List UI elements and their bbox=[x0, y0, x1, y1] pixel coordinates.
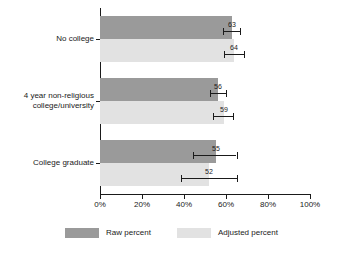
legend-entry: Adjusted percent bbox=[177, 228, 278, 238]
bar-raw bbox=[100, 16, 232, 39]
data-label: 55 bbox=[212, 145, 220, 153]
error-bar-cap-high bbox=[240, 28, 241, 35]
error-bar-line bbox=[181, 178, 237, 179]
error-bar-line bbox=[224, 54, 244, 55]
x-tick-mark bbox=[226, 195, 227, 199]
error-bar-cap-high bbox=[226, 90, 227, 97]
legend-label: Adjusted percent bbox=[218, 228, 278, 238]
x-tick-mark bbox=[100, 195, 101, 199]
error-bar-cap-low bbox=[210, 90, 211, 97]
error-bar-cap-low bbox=[181, 175, 182, 182]
error-bar-cap-low bbox=[223, 28, 224, 35]
x-tick-label: 80% bbox=[248, 200, 288, 210]
bar-adjusted bbox=[100, 101, 224, 124]
x-axis-line bbox=[100, 194, 311, 195]
x-tick-label: 60% bbox=[206, 200, 246, 210]
legend-entry: Raw percent bbox=[65, 228, 151, 238]
x-tick-label: 0% bbox=[80, 200, 120, 210]
data-label: 56 bbox=[214, 83, 222, 91]
x-tick-label: 20% bbox=[122, 200, 162, 210]
error-bar-cap-high bbox=[233, 113, 234, 120]
error-bar-cap-low bbox=[224, 51, 225, 58]
error-bar-cap-low bbox=[213, 113, 214, 120]
bar-raw bbox=[100, 78, 218, 101]
error-bar-line bbox=[213, 116, 233, 117]
x-tick-label: 100% bbox=[290, 200, 330, 210]
category-label: College graduate bbox=[2, 158, 94, 168]
chart-legend: Raw percentAdjusted percent bbox=[0, 224, 343, 242]
error-bar-line bbox=[223, 31, 240, 32]
legend-label: Raw percent bbox=[106, 228, 151, 238]
x-tick-mark bbox=[184, 195, 185, 199]
bar-raw bbox=[100, 140, 216, 163]
data-label: 59 bbox=[220, 106, 228, 114]
category-label: No college bbox=[2, 34, 94, 44]
legend-swatch-raw bbox=[65, 228, 99, 238]
bar-adjusted bbox=[100, 39, 234, 62]
error-bar-cap-low bbox=[193, 152, 194, 159]
error-bar-cap-high bbox=[244, 51, 245, 58]
x-tick-label: 40% bbox=[164, 200, 204, 210]
data-label: 63 bbox=[228, 21, 236, 29]
error-bar-line bbox=[193, 155, 236, 156]
x-tick-mark bbox=[142, 195, 143, 199]
x-tick-mark bbox=[310, 195, 311, 199]
error-bar-line bbox=[210, 93, 226, 94]
x-tick-mark bbox=[268, 195, 269, 199]
legend-swatch-adj bbox=[177, 228, 211, 238]
bar-chart-figure: 0%20%40%60%80%100% No college4 year non-… bbox=[0, 0, 343, 254]
error-bar-cap-high bbox=[237, 175, 238, 182]
data-label: 52 bbox=[205, 168, 213, 176]
error-bar-cap-high bbox=[237, 152, 238, 159]
data-label: 64 bbox=[230, 44, 238, 52]
bar-adjusted bbox=[100, 163, 209, 186]
category-label: 4 year non-religiouscollege/university bbox=[2, 91, 94, 111]
